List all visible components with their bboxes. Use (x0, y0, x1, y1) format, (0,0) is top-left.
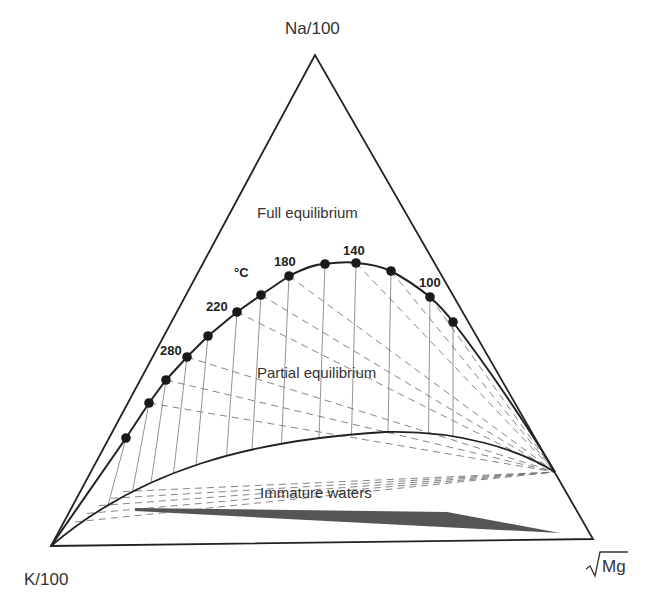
giggenbach-ternary-diagram: Na/100 K/100 Mg Full equilibrium Partial… (0, 0, 656, 601)
isotherm-line (227, 312, 238, 456)
vertex-label-na: Na/100 (285, 19, 340, 38)
equilibrium-point (232, 307, 242, 317)
equilibrium-point (284, 271, 294, 281)
isotherm-line (282, 276, 290, 444)
equilibrium-point (351, 258, 361, 268)
temp-label-140: 140 (343, 243, 365, 258)
equilibrium-point (182, 352, 192, 362)
equilibrium-point (161, 375, 171, 385)
vertex-label-k: K/100 (24, 570, 68, 589)
equilibrium-point (386, 266, 396, 276)
partial-equilibrium-label: Partial equilibrium (257, 364, 376, 381)
isotherm-line (108, 438, 126, 505)
isotherm-line (196, 336, 208, 465)
dashed-grid-line (391, 271, 555, 472)
equilibrium-point (121, 433, 131, 443)
svg-text:Mg: Mg (602, 557, 626, 576)
dashed-grid-line (166, 380, 555, 472)
equilibrium-point (144, 398, 154, 408)
equilibrium-point (256, 290, 266, 300)
full-equilibrium-label: Full equilibrium (257, 204, 358, 221)
unit-label: °C (234, 265, 249, 280)
equilibrium-point (320, 259, 330, 269)
equilibrium-point (203, 331, 213, 341)
equilibrium-point (448, 317, 458, 327)
isotherm-line (151, 380, 166, 483)
isotherm-line (319, 264, 325, 438)
immature-waters-wedge (135, 508, 560, 533)
temp-label-220: 220 (206, 299, 228, 314)
isotherm-line (174, 357, 188, 473)
equilibrium-point (425, 292, 435, 302)
temp-label-100: 100 (419, 275, 441, 290)
temp-label-180: 180 (274, 254, 296, 269)
dashed-grid-line (237, 312, 555, 472)
temp-label-280: 280 (160, 343, 182, 358)
isotherm-line (388, 271, 391, 432)
dashed-grid-line (261, 295, 555, 472)
immature-waters-label: Immature waters (260, 484, 372, 501)
vertex-label-mg: Mg (586, 552, 628, 576)
